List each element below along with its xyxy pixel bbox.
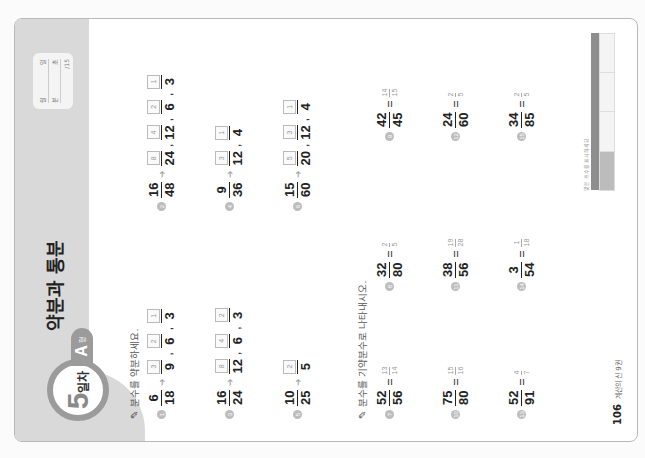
problem-15: 15 3485 = 25 [507,93,536,141]
problem-2: 2 1648 ➜ 824 , 412 , 26 , 13 [147,75,176,211]
answer-fraction: 13 [147,75,176,89]
answer-fraction: 14 [215,126,244,140]
problem-number: 14 [517,282,526,291]
worksheet-page: 5 일차 A 형 약분과 통분 월일 분초 /15 ✎ 분수를 약분하세요. 1… [14,18,638,442]
problem-number: 10 [451,410,460,419]
problem-number: 13 [517,410,526,419]
answer-fraction[interactable]: 118 [513,239,530,247]
arrow-icon: ➜ [293,378,303,386]
answer-fraction[interactable]: 47 [513,371,530,375]
section2-instruction-text: 분수를 기약분수로 나타내시오. [355,281,369,407]
answer-box[interactable]: 8 [147,151,160,165]
problem-number: 11 [451,282,460,291]
answer-box[interactable]: 3 [147,360,160,374]
section2-instruction: ✎ 분수를 기약분수로 나타내시오. [355,281,369,419]
level-letter: A [73,345,91,357]
problem-number: 12 [451,132,460,141]
problem-number: 4 [225,202,234,211]
second-label: 초 [49,59,60,65]
problem-13: 13 5291 = 47 [507,371,536,419]
page-footer: 106 계산의 신 9권 [612,360,623,425]
answer-box[interactable]: 1 [283,100,296,114]
answer-fraction[interactable]: 25 [447,93,464,97]
arrow-icon: ➜ [293,170,303,178]
month-label: 월 [37,97,48,103]
given-fraction: 1648 [147,182,176,198]
answer-fraction[interactable]: 1516 [447,367,464,375]
answer-fraction[interactable]: 1314 [381,367,398,375]
problem-7: 7 5256 = 1314 [375,367,404,419]
legend-caption: 맞은 개수를 표시하세요. [582,33,589,191]
answer-fraction: 412 [147,125,176,139]
problem-1: 1 618 ➜ 39 , 26 , 13 [147,309,176,419]
answer-fraction: 14 [283,100,312,114]
problem-12: 12 2460 = 25 [441,93,470,141]
problem-number: 7 [385,410,394,419]
answer-box[interactable]: 2 [147,100,160,114]
answer-fraction[interactable]: 1928 [447,239,464,247]
problem-number: 1 [157,410,166,419]
answer-box[interactable]: 5 [283,151,296,165]
day-suffix: 일차 [74,371,91,393]
given-fraction: 1624 [215,390,244,406]
answer-fraction: 520 [283,151,312,165]
answer-fraction: 824 [147,151,176,165]
pencil-icon: ✎ [129,411,140,419]
book-name: 계산의 신 9권 [613,360,623,399]
answer-fraction: 26 [147,100,176,114]
problem-10: 10 7580 = 1516 [441,367,470,419]
answer-fraction: 26 [147,334,176,348]
answer-fraction: 46 [215,334,244,348]
given-fraction: 936 [215,182,244,198]
legend-table [591,33,615,191]
answer-box[interactable]: 2 [147,334,160,348]
problem-8: 8 3280 = 25 [375,243,404,291]
section1-instruction: ✎ 분수를 약분하세요. [127,329,141,419]
answer-box[interactable]: 4 [147,125,160,139]
answer-box[interactable]: 2 [215,308,228,322]
answer-fraction[interactable]: 25 [513,93,530,97]
answer-box[interactable]: 1 [147,75,160,89]
problem-number: 8 [385,282,394,291]
arrow-icon: ➜ [157,378,167,386]
problem-6: 6 1560 ➜ 520 , 312 , 14 [283,100,312,211]
pencil-icon: ✎ [357,411,368,419]
answer-box[interactable]: 4 [215,334,228,348]
page-number: 106 [612,404,623,425]
answer-box[interactable]: 3 [283,125,296,139]
problem-number: 6 [293,202,302,211]
answer-fraction: 812 [215,359,244,373]
problem-3: 3 1624 ➜ 812 , 46 , 23 [215,308,244,419]
problem-number: 15 [517,132,526,141]
answer-fraction: 25 [283,360,312,374]
answer-fraction[interactable]: 25 [381,243,398,247]
answer-fraction: 39 [147,360,176,374]
level-tab: A 형 [71,328,93,366]
answer-fraction: 312 [283,125,312,139]
score-total: /15 [61,59,72,69]
arrow-icon: ➜ [157,170,167,178]
problem-9: 9 4245 = 1415 [375,89,404,141]
score-legend: 맞은 개수를 표시하세요. [582,33,615,191]
answer-box[interactable]: 2 [283,360,296,374]
answer-fraction: 23 [215,308,244,322]
day-badge: 5 일차 [47,359,109,421]
answer-box[interactable]: 1 [215,126,228,140]
problem-number: 5 [293,410,302,419]
answer-fraction: 312 [215,151,244,165]
problem-14: 14 354 = 118 [507,239,536,291]
answer-box[interactable]: 8 [215,359,228,373]
day-label: 일 [37,59,48,65]
problem-11: 11 3856 = 1928 [441,239,470,291]
problem-5: 5 1025 ➜ 25 [283,360,312,419]
answer-box[interactable]: 1 [147,309,160,323]
minute-label: 분 [49,97,60,103]
day-number: 5 [61,393,95,410]
problem-4: 4 936 ➜ 312 , 14 [215,126,244,211]
answer-box[interactable]: 3 [215,151,228,165]
answer-fraction: 13 [147,309,176,323]
answer-fraction[interactable]: 1415 [381,89,398,97]
arrow-icon: ➜ [225,170,235,178]
arrow-icon: ➜ [225,378,235,386]
given-fraction: 1025 [283,390,312,406]
